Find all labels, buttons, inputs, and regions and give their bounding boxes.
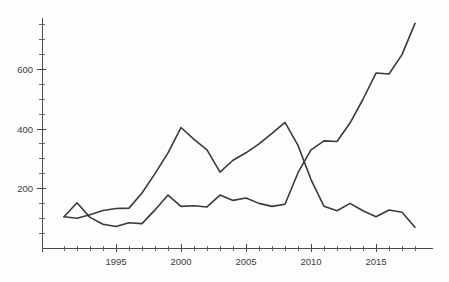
chart-axes (42, 18, 433, 252)
x-tick-label: 1995 (105, 256, 126, 267)
y-tick-label: 400 (17, 124, 33, 135)
y-tick-label: 200 (17, 183, 33, 194)
x-tick-label: 2005 (235, 256, 256, 267)
y-axis-tick-labels: 200400600 (17, 64, 33, 194)
chart-series-group (64, 23, 415, 227)
y-tick-label: 600 (17, 64, 33, 75)
x-axis-tick-labels: 19952000200520102015 (105, 256, 386, 267)
x-tick-label: 2000 (170, 256, 191, 267)
chart-container: 200400600 19952000200520102015 (0, 0, 449, 282)
x-tick-label: 2010 (300, 256, 321, 267)
x-tick-label: 2015 (365, 256, 386, 267)
series-line-declining-series (64, 23, 415, 226)
series-line-rising-series (64, 122, 415, 227)
line-chart: 200400600 19952000200520102015 (0, 0, 449, 282)
